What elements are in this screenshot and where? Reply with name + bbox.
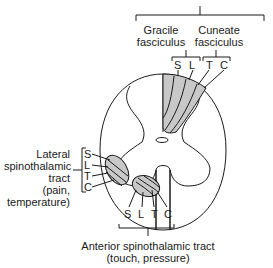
gracile-label: Gracile fasciculus [132, 24, 190, 48]
anterior-segment-t: T [151, 208, 158, 220]
central-canal [156, 138, 168, 143]
lateral-segment-c: C [84, 181, 92, 193]
anterior-segment-l: L [138, 208, 144, 220]
gracile-segment-s: S [174, 59, 181, 71]
dorsal-columns-bracket [136, 6, 264, 21]
anterior-segment-s: S [124, 208, 131, 220]
cuneate-segment-c: C [220, 59, 228, 71]
cuneate-segment-t: T [206, 59, 213, 71]
anterior-segment-c: C [164, 208, 172, 220]
anterior-spinothalamic-label: Anterior spinothalamic tract (touch, pre… [78, 240, 218, 264]
gracile-segment-l: L [189, 59, 195, 71]
anterior-median-fissure [156, 166, 170, 231]
cuneate-label: Cuneate fasciculus [190, 24, 248, 48]
lateral-spinothalamic-label: Lateral spinothalamic tract (pain, tempe… [4, 148, 70, 208]
